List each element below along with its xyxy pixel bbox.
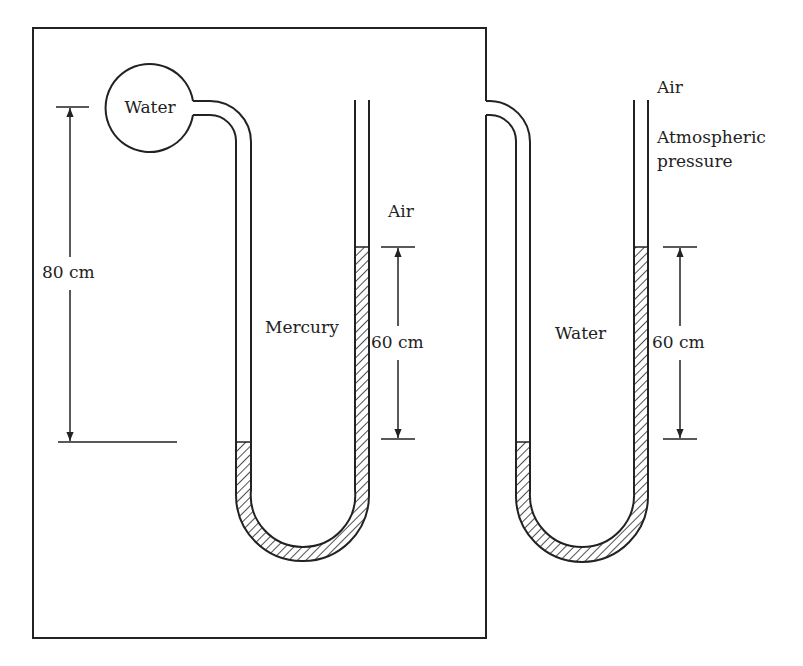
atmospheric-label-line2: pressure [657, 151, 733, 171]
atmospheric-label-line1: Atmospheric [656, 127, 766, 147]
left-top-label: Air [387, 201, 415, 221]
manometer-diagram: Water 80 cm Mercury Air 60 cm Water Air … [0, 0, 803, 666]
bulb-height-label: 80 cm [42, 262, 95, 282]
left-height-label: 60 cm [371, 332, 424, 352]
right-height-label: 60 cm [652, 332, 705, 352]
bulb-label: Water [124, 97, 176, 117]
left-fluid-label: Mercury [265, 317, 339, 337]
left-mercury-fill [236, 247, 369, 561]
right-top-label: Air [656, 77, 684, 97]
right-water-fill [516, 247, 648, 562]
right-fluid-label: Water [555, 323, 607, 343]
